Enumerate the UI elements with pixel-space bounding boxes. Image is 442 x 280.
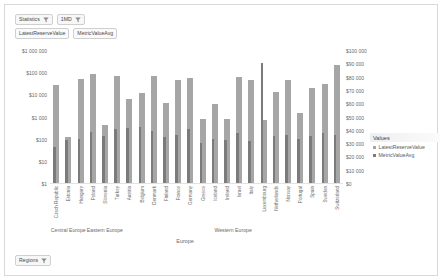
bar-group[interactable] (99, 51, 111, 184)
bar-metric-value-avg[interactable] (90, 132, 93, 184)
bar-metric-value-avg[interactable] (126, 128, 129, 184)
bar-latest-reserve-value[interactable] (163, 103, 169, 184)
bar-latest-reserve-value[interactable] (90, 74, 96, 184)
bar-latest-reserve-value[interactable] (309, 88, 315, 184)
bar-metric-value-avg[interactable] (102, 136, 105, 184)
bar-latest-reserve-value[interactable] (65, 137, 71, 184)
plot-area (50, 51, 343, 184)
y-axis-left-tick: $1 (41, 181, 47, 187)
funnel-filter-icon[interactable] (41, 258, 47, 264)
bar-group[interactable] (282, 51, 294, 184)
bar-latest-reserve-value[interactable] (139, 93, 145, 184)
bar-latest-reserve-value[interactable] (322, 84, 328, 184)
bar-metric-value-avg[interactable] (78, 139, 81, 184)
legend-item-label: MetricValueAvg (379, 152, 415, 158)
bar-group[interactable] (148, 51, 160, 184)
bar-metric-value-avg[interactable] (285, 135, 288, 184)
statistics-filter-row: Statistics 1MD (15, 14, 85, 25)
y-axis-right: $100 000$90 000$80 000$70 000$60 000$50 … (346, 51, 396, 184)
x-axis-title: Europe (5, 238, 365, 244)
bar-group[interactable] (233, 51, 245, 184)
bar-latest-reserve-value[interactable] (236, 77, 242, 184)
bar-group[interactable] (50, 51, 62, 184)
bar-group[interactable] (245, 51, 257, 184)
bar-latest-reserve-value[interactable] (297, 113, 303, 184)
bar-metric-value-avg[interactable] (65, 140, 68, 184)
legend-item[interactable]: LatestReserveValue (370, 142, 440, 150)
statistics-filter-label: Statistics (19, 14, 40, 25)
bar-latest-reserve-value[interactable] (78, 79, 84, 184)
bar-latest-reserve-value[interactable] (334, 65, 340, 184)
bar-group[interactable] (135, 51, 147, 184)
bar-metric-value-avg[interactable] (297, 139, 300, 184)
x-axis-group-label: Eastern Europe (87, 227, 123, 233)
bar-group[interactable] (184, 51, 196, 184)
bar-latest-reserve-value[interactable] (212, 104, 218, 184)
bar-metric-value-avg[interactable] (236, 133, 239, 184)
bar-metric-value-avg[interactable] (114, 129, 117, 184)
regions-filter-pill[interactable]: Regions (15, 255, 51, 266)
x-axis-tick-label: Finland (163, 186, 168, 201)
x-axis-tick: Turkey (111, 186, 123, 228)
bar-metric-value-avg[interactable] (261, 63, 264, 184)
bar-metric-value-avg[interactable] (273, 136, 276, 184)
bar-group[interactable] (294, 51, 306, 184)
bar-metric-value-avg[interactable] (322, 133, 325, 184)
funnel-filter-icon[interactable] (43, 17, 49, 23)
bar-latest-reserve-value[interactable] (261, 120, 267, 184)
measure-pill-metric-value-avg[interactable]: MetricValueAvg (73, 28, 117, 39)
bar-group[interactable] (209, 51, 221, 184)
bar-metric-value-avg[interactable] (151, 131, 154, 184)
bar-group[interactable] (331, 51, 343, 184)
bar-metric-value-avg[interactable] (248, 141, 251, 184)
bar-group[interactable] (62, 51, 74, 184)
dashboard-screen: Statistics 1MD LatestReserveValue Metric… (0, 0, 442, 280)
bar-group[interactable] (257, 51, 269, 184)
bar-group[interactable] (123, 51, 135, 184)
y-axis-left-tick: $10 000 (29, 92, 47, 98)
bar-group[interactable] (160, 51, 172, 184)
bar-latest-reserve-value[interactable] (53, 85, 59, 184)
measure-pill-latest-reserve-value[interactable]: LatestReserveValue (15, 28, 69, 39)
bar-latest-reserve-value[interactable] (102, 125, 108, 184)
bar-metric-value-avg[interactable] (163, 137, 166, 184)
bar-metric-value-avg[interactable] (187, 129, 190, 184)
bar-group[interactable] (196, 51, 208, 184)
bar-latest-reserve-value[interactable] (151, 76, 157, 184)
bar-group[interactable] (270, 51, 282, 184)
bar-group[interactable] (318, 51, 330, 184)
bar-latest-reserve-value[interactable] (285, 80, 291, 184)
bar-latest-reserve-value[interactable] (224, 119, 230, 184)
bar-group[interactable] (221, 51, 233, 184)
bar-metric-value-avg[interactable] (224, 140, 227, 184)
y-axis-right-tick: $10 000 (346, 168, 364, 174)
bar-metric-value-avg[interactable] (139, 127, 142, 184)
x-axis-tick: Austria (123, 186, 135, 228)
bar-latest-reserve-value[interactable] (273, 92, 279, 184)
bar-latest-reserve-value[interactable] (248, 80, 254, 184)
bar-metric-value-avg[interactable] (334, 135, 337, 184)
x-axis-tick-label: Turkey (115, 186, 120, 200)
bar-latest-reserve-value[interactable] (200, 119, 206, 184)
x-axis-tick-label: Portugal (298, 186, 303, 203)
bar-metric-value-avg[interactable] (175, 135, 178, 184)
funnel-filter-icon[interactable] (75, 17, 81, 23)
x-axis-tick: Slovenia (99, 186, 111, 228)
bar-group[interactable] (87, 51, 99, 184)
bar-group[interactable] (306, 51, 318, 184)
bar-metric-value-avg[interactable] (200, 143, 203, 184)
bar-metric-value-avg[interactable] (212, 139, 215, 184)
bar-group[interactable] (74, 51, 86, 184)
bar-metric-value-avg[interactable] (53, 147, 56, 184)
bar-latest-reserve-value[interactable] (187, 78, 193, 184)
bar-latest-reserve-value[interactable] (175, 80, 181, 184)
bar-latest-reserve-value[interactable] (114, 76, 120, 184)
bar-latest-reserve-value[interactable] (126, 99, 132, 184)
statistics-filter-pill[interactable]: Statistics (15, 14, 53, 25)
legend-item[interactable]: MetricValueAvg (370, 150, 440, 158)
bar-metric-value-avg[interactable] (309, 136, 312, 184)
period-filter-pill[interactable]: 1MD (57, 14, 85, 25)
bar-group[interactable] (172, 51, 184, 184)
y-axis-right-tick: $40 000 (346, 128, 364, 134)
bar-group[interactable] (111, 51, 123, 184)
